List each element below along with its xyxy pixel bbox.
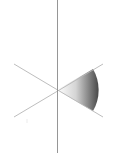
shaded-wedge [57, 69, 99, 111]
cone-diagram [0, 0, 115, 153]
